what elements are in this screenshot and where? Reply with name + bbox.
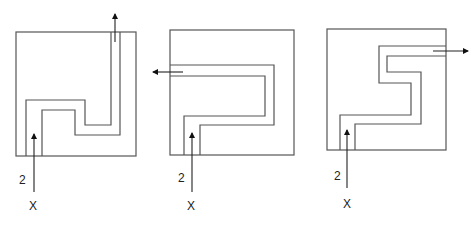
entry-label: 2 xyxy=(19,173,26,187)
entry-label: 2 xyxy=(178,171,185,185)
channel-diagrams: 2 X 2 X 2 X xyxy=(0,0,475,226)
channel-inner-wall xyxy=(355,56,446,150)
entry-point-label: X xyxy=(343,197,351,211)
channel-inner-wall xyxy=(170,76,265,155)
box-outline xyxy=(327,29,446,150)
box-outline xyxy=(170,30,294,155)
channel-outer-wall xyxy=(170,65,274,155)
figure-1: 2 X xyxy=(16,14,136,213)
entry-point-label: X xyxy=(187,199,195,213)
channel-inner-wall xyxy=(42,32,120,156)
channel-outer-wall xyxy=(340,46,446,150)
channel-outer-wall xyxy=(26,32,111,156)
entry-label: 2 xyxy=(334,169,341,183)
figure-2: 2 X xyxy=(153,30,294,213)
figure-3: 2 X xyxy=(327,29,468,211)
entry-point-label: X xyxy=(29,199,37,213)
